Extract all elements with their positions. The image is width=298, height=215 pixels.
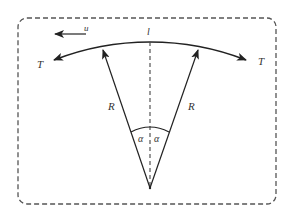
apex-point [149, 187, 151, 189]
string-element-diagram: u l T T R R α α [0, 0, 298, 215]
dashed-boundary-box [18, 18, 276, 204]
velocity-label: u [84, 23, 89, 33]
angle-right-label: α [154, 133, 160, 144]
radius-right-label: R [187, 100, 195, 112]
diagram-canvas: u l T T R R α α [0, 0, 298, 215]
length-label: l [147, 26, 150, 37]
tension-left-label: T [37, 58, 44, 70]
radius-arrow-right [150, 50, 198, 188]
tension-right-label: T [258, 55, 265, 67]
radius-arrow-left [103, 50, 150, 188]
angle-left-label: α [138, 133, 144, 144]
string-arc-left-tension [54, 42, 150, 60]
radius-left-label: R [107, 100, 115, 112]
